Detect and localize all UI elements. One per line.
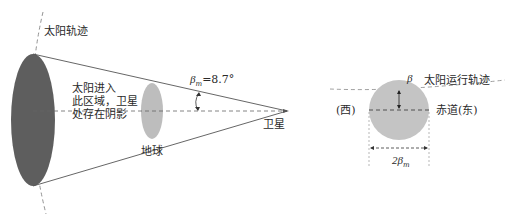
beta-label: β xyxy=(407,72,412,85)
width-arrow-left xyxy=(370,146,374,150)
width-arrow-right xyxy=(424,146,428,150)
west-label: (西) xyxy=(336,104,356,117)
shadow-region-label: 太阳进入 此区域，卫星 处存在阴影 xyxy=(72,82,138,121)
sun-disc xyxy=(11,54,55,186)
shadow-region-line-1: 太阳进入 xyxy=(72,82,138,95)
angle-arrow-bottom xyxy=(195,107,200,111)
satellite-label: 卫星 xyxy=(263,118,285,131)
sun-path-label: 太阳运行轨迹 xyxy=(424,74,490,87)
angle-label: βm=8.7° xyxy=(190,73,234,91)
width-prefix: 2β xyxy=(392,154,403,166)
earth-label: 地球 xyxy=(141,145,163,158)
satellite-point xyxy=(283,109,289,113)
width-label: 2βm xyxy=(392,154,410,172)
shadow-region-line-2: 此区域，卫星 xyxy=(72,95,138,108)
sun-orbit-label: 太阳轨迹 xyxy=(44,25,88,38)
shadow-region-line-3: 处存在阴影 xyxy=(72,108,138,121)
equator-label: 赤道(东) xyxy=(436,104,478,117)
angle-value: =8.7° xyxy=(202,73,234,86)
width-subscript: m xyxy=(403,161,410,169)
angle-arrow-top xyxy=(196,92,201,96)
